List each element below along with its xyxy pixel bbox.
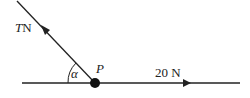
point-p — [90, 78, 100, 88]
force-label: 20 N — [155, 65, 181, 80]
tension-label: TN — [15, 20, 32, 35]
force-diagram: TN α P 20 N — [0, 0, 250, 98]
angle-label: α — [71, 66, 79, 81]
inclined-line — [17, 1, 95, 83]
point-label: P — [95, 61, 104, 76]
force-arrow-icon — [183, 79, 191, 87]
